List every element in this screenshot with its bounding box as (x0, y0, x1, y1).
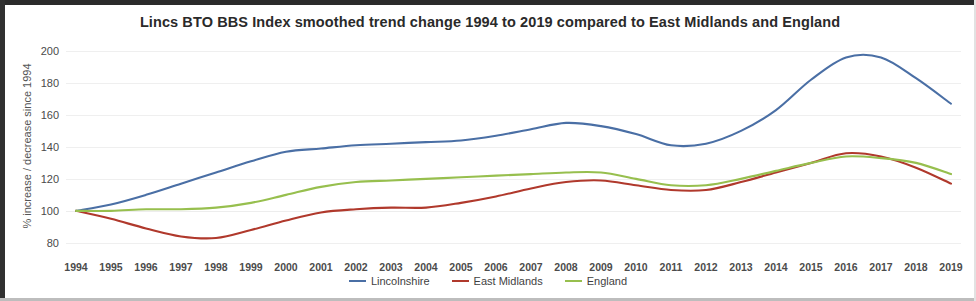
x-tick-2012: 2012 (694, 261, 717, 273)
x-tick-2011: 2011 (660, 261, 683, 273)
x-tick-1995: 1995 (99, 261, 122, 273)
x-tick-2002: 2002 (344, 261, 367, 273)
series-line-east-midlands (76, 153, 951, 238)
x-tick-1999: 1999 (239, 261, 262, 273)
y-tick-180: 180 (41, 77, 59, 89)
x-tick-2008: 2008 (554, 261, 577, 273)
y-tick-140: 140 (41, 141, 59, 153)
y-tick-80: 80 (47, 237, 59, 249)
legend-item-england[interactable]: England (565, 275, 627, 287)
x-tick-2007: 2007 (519, 261, 542, 273)
x-tick-2018: 2018 (904, 261, 927, 273)
x-tick-1994: 1994 (64, 261, 87, 273)
scan-frame-top (0, 0, 976, 5)
x-tick-2019: 2019 (939, 261, 962, 273)
scan-frame-left (0, 0, 5, 301)
series-lines (66, 43, 961, 254)
x-tick-2010: 2010 (624, 261, 647, 273)
legend-item-east-midlands[interactable]: East Midlands (452, 275, 543, 287)
legend-swatch-icon (565, 280, 582, 283)
x-tick-2017: 2017 (869, 261, 892, 273)
x-tick-2014: 2014 (764, 261, 787, 273)
y-tick-200: 200 (41, 45, 59, 57)
legend-label: East Midlands (474, 275, 543, 287)
y-axis-title: % increase / decrease since 1994 (21, 51, 33, 241)
plot-area: 80100120140160180200 1994199519961997199… (66, 43, 961, 254)
x-tick-1998: 1998 (204, 261, 227, 273)
x-tick-2006: 2006 (484, 261, 507, 273)
series-line-lincolnshire (76, 55, 951, 211)
y-tick-100: 100 (41, 205, 59, 217)
x-tick-2000: 2000 (274, 261, 297, 273)
y-tick-120: 120 (41, 173, 59, 185)
x-tick-2015: 2015 (799, 261, 822, 273)
x-tick-1996: 1996 (134, 261, 157, 273)
x-tick-2009: 2009 (589, 261, 612, 273)
x-tick-2013: 2013 (729, 261, 752, 273)
chart-title: Lincs BTO BBS Index smoothed trend chang… (60, 14, 920, 30)
chart-figure: Lincs BTO BBS Index smoothed trend chang… (0, 0, 976, 301)
legend-item-lincolnshire[interactable]: Lincolnshire (349, 275, 430, 287)
y-tick-160: 160 (41, 109, 59, 121)
series-line-england (76, 156, 951, 211)
x-tick-2005: 2005 (449, 261, 472, 273)
chart-legend: LincolnshireEast MidlandsEngland (0, 275, 976, 287)
x-tick-2004: 2004 (414, 261, 437, 273)
x-tick-1997: 1997 (169, 261, 192, 273)
legend-label: Lincolnshire (371, 275, 430, 287)
x-tick-2001: 2001 (309, 261, 332, 273)
legend-swatch-icon (452, 280, 469, 283)
x-tick-2016: 2016 (834, 261, 857, 273)
legend-swatch-icon (349, 280, 366, 283)
x-tick-2003: 2003 (379, 261, 402, 273)
legend-label: England (587, 275, 627, 287)
